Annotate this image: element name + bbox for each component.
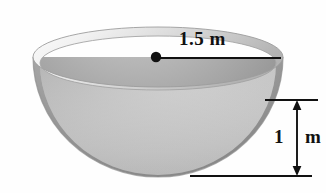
height-label-number: 1 (274, 126, 295, 148)
arrowhead-up (293, 100, 302, 110)
bowl-drawing (0, 0, 326, 193)
height-label-unit: m (295, 126, 321, 148)
center-dot (151, 52, 161, 62)
arrowhead-down (293, 166, 302, 176)
radius-label: 1.5 m (179, 28, 226, 50)
hemispherical-bowl-figure: 1.5 m 1m (0, 0, 326, 193)
height-label: 1m (274, 126, 321, 148)
